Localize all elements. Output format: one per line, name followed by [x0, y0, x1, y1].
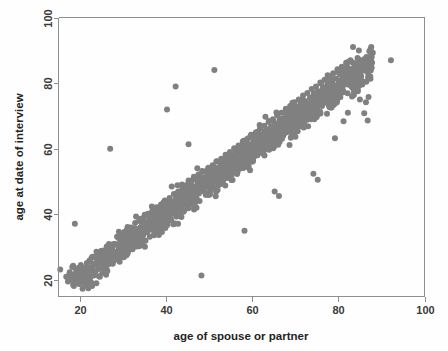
x-axis-title: age of spouse or partner: [174, 330, 309, 342]
x-tick-label: 80: [332, 304, 344, 316]
x-tick-label: 40: [160, 304, 172, 316]
y-tick-label: 80: [42, 77, 54, 89]
x-tick-label: 20: [74, 304, 86, 316]
y-tick-label: 100: [42, 9, 54, 27]
y-tick-label: 20: [42, 274, 54, 286]
plot-canvas: 20406080100 20406080100 age of spouse or…: [0, 0, 448, 351]
x-tick-label: 60: [246, 304, 258, 316]
y-axis-title: age at date of interview: [13, 93, 25, 220]
scatter-plot-figure: 20406080100 20406080100 age of spouse or…: [0, 0, 448, 351]
y-tick-label: 40: [42, 208, 54, 220]
y-tick-label: 60: [42, 143, 54, 155]
x-tick-label: 100: [416, 304, 434, 316]
